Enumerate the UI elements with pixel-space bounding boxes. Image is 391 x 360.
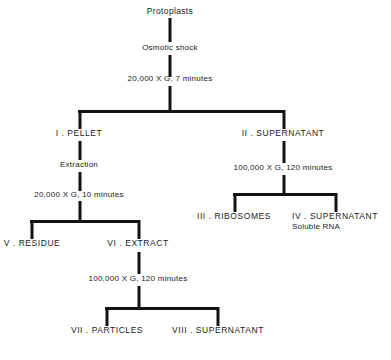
connector-split2-right (137, 220, 140, 239)
node-pellet: I . PELLET (56, 129, 103, 139)
connector-split1-left (78, 110, 81, 129)
node-spin-20k-7min: 20,000 X G, 7 minutes (128, 74, 213, 83)
node-supernatant-iv-sublabel: Soluble RNA (292, 222, 378, 231)
connector-extraction-to-spin10 (78, 172, 81, 191)
connector-protoplasts-to-osmotic (169, 18, 172, 42)
node-extraction: Extraction (60, 160, 98, 169)
node-supernatant-viii: VIII . SUPERNATANT (172, 326, 264, 336)
node-particles: VII . PARTICLES (71, 326, 143, 336)
node-spin-20k-10min: 20,000 X G, 10 minutes (34, 190, 124, 199)
connector-pellet-to-extraction (78, 141, 81, 160)
node-extract: VI . EXTRACT (107, 239, 168, 249)
connector-spin100k-bottom-to-split4 (137, 286, 140, 309)
flowchart-diagram: Protoplasts Osmotic shock 20,000 X G, 7 … (0, 0, 391, 360)
node-spin-100k-120min-bottom: 100,000 X G, 120 minutes (89, 274, 188, 283)
connector-split2-left (30, 220, 33, 239)
node-spin-100k-120min-right: 100,000 X G, 120 minutes (234, 163, 333, 172)
connector-supernatant2-to-spin100k (282, 141, 285, 163)
node-ribosomes: III . RIBOSOMES (197, 212, 271, 222)
connector-spin7-to-split1 (169, 86, 172, 112)
node-supernatant-iv-label: IV . SUPERNATANT (292, 211, 378, 221)
connector-split4-left (105, 307, 108, 326)
split-bar-level2-left (30, 220, 140, 223)
split-bar-level1 (78, 110, 285, 113)
connector-spin100k-to-split3 (282, 175, 285, 195)
connector-spin10-to-split2 (78, 201, 81, 222)
connector-split3-left (233, 193, 236, 212)
split-bar-level2-right (233, 193, 337, 196)
node-residue: V . RESIDUE (4, 239, 61, 249)
node-supernatant-iv: IV . SUPERNATANT Soluble RNA (292, 212, 378, 231)
connector-split4-right (216, 307, 219, 326)
node-osmotic-shock: Osmotic shock (142, 43, 198, 52)
connector-extract-to-spin100k-bottom (137, 252, 140, 274)
connector-split3-right (334, 193, 337, 212)
split-bar-level3 (105, 307, 219, 310)
node-supernatant-ii: II . SUPERNATANT (242, 129, 325, 139)
node-protoplasts: Protoplasts (147, 7, 193, 17)
connector-split1-right (282, 110, 285, 129)
